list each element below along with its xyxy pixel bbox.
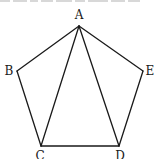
diagonal-ac [41, 26, 79, 146]
pentagon-diagram: A B C D E [0, 0, 156, 159]
edge-de [119, 71, 143, 146]
vertex-label-a: A [74, 8, 84, 22]
vertex-label-d: D [115, 149, 125, 159]
edge-ab [17, 26, 79, 71]
vertex-labels: A B C D E [5, 8, 155, 159]
pentagon-edges [17, 26, 143, 146]
edge-bc [17, 71, 41, 146]
vertex-label-c: C [35, 149, 44, 159]
edge-ea [79, 26, 143, 71]
diagonal-ad [79, 26, 119, 146]
vertex-label-b: B [5, 64, 14, 78]
vertex-label-e: E [146, 64, 155, 78]
